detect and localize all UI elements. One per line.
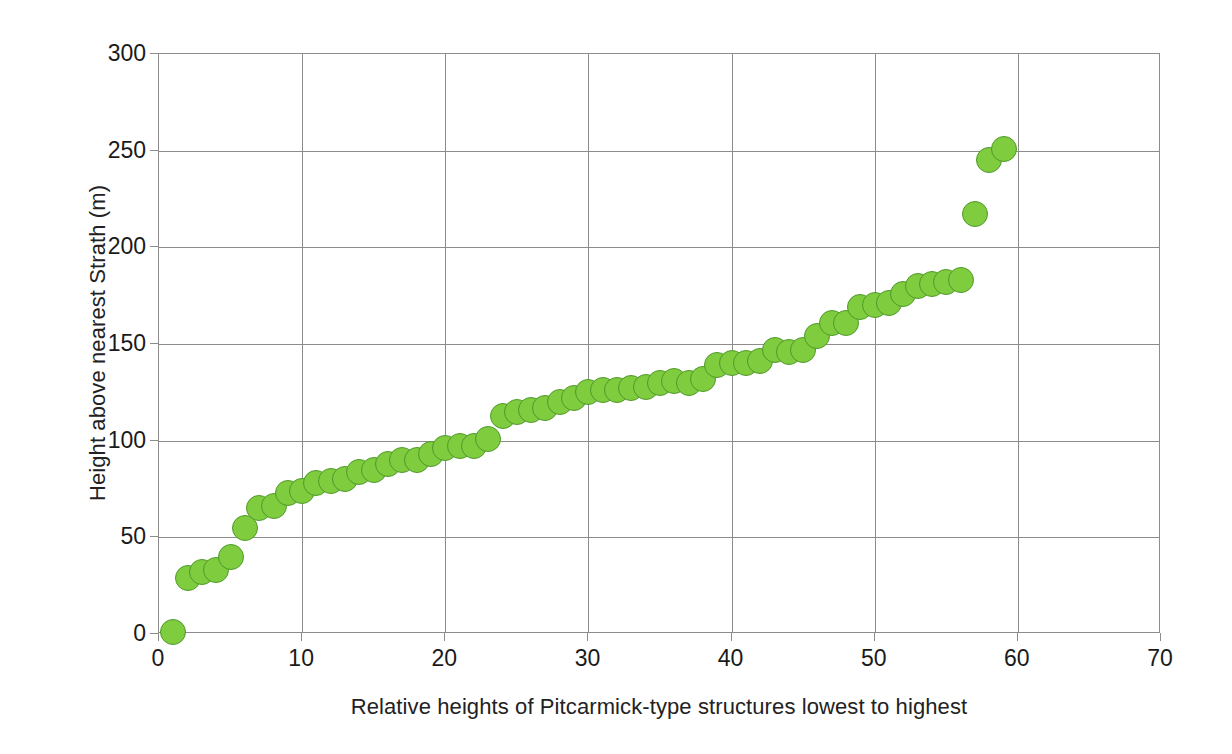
data-point [160, 619, 186, 645]
gridline-vertical [302, 54, 303, 632]
x-tick-mark [731, 633, 732, 641]
x-tick-mark [158, 633, 159, 641]
scatter-chart: Height above nearest Strath (m) Relative… [0, 0, 1232, 754]
x-axis-title: Relative heights of Pitcarmick-type stru… [158, 694, 1160, 720]
y-tick-mark [150, 246, 158, 247]
x-tick-mark [1160, 633, 1161, 641]
data-point [948, 267, 974, 293]
x-tick-label: 60 [972, 645, 1062, 672]
x-tick-label: 40 [686, 645, 776, 672]
y-tick-label: 100 [56, 426, 146, 453]
gridline-horizontal [159, 247, 1159, 248]
gridline-vertical [445, 54, 446, 632]
data-point [218, 544, 244, 570]
y-tick-label: 50 [56, 523, 146, 550]
gridline-horizontal [159, 441, 1159, 442]
x-tick-label: 20 [399, 645, 489, 672]
gridline-horizontal [159, 344, 1159, 345]
x-tick-label: 50 [829, 645, 919, 672]
data-point [962, 201, 988, 227]
y-tick-label: 150 [56, 330, 146, 357]
gridline-vertical [1018, 54, 1019, 632]
x-tick-label: 30 [542, 645, 632, 672]
plot-area [158, 53, 1160, 633]
gridline-vertical [732, 54, 733, 632]
x-tick-mark [1017, 633, 1018, 641]
x-tick-label: 70 [1115, 645, 1205, 672]
y-tick-mark [150, 150, 158, 151]
data-point [991, 136, 1017, 162]
y-tick-label: 200 [56, 233, 146, 260]
data-point [475, 426, 501, 452]
y-tick-mark [150, 633, 158, 634]
x-tick-label: 10 [256, 645, 346, 672]
y-tick-mark [150, 53, 158, 54]
y-tick-mark [150, 440, 158, 441]
x-tick-mark [444, 633, 445, 641]
x-tick-mark [587, 633, 588, 641]
gridline-vertical [875, 54, 876, 632]
y-tick-mark [150, 343, 158, 344]
gridline-vertical [588, 54, 589, 632]
x-tick-label: 0 [113, 645, 203, 672]
gridline-horizontal [159, 537, 1159, 538]
y-tick-label: 300 [56, 40, 146, 67]
x-tick-mark [874, 633, 875, 641]
x-tick-mark [301, 633, 302, 641]
y-tick-label: 0 [56, 620, 146, 647]
y-tick-mark [150, 536, 158, 537]
y-tick-label: 250 [56, 136, 146, 163]
